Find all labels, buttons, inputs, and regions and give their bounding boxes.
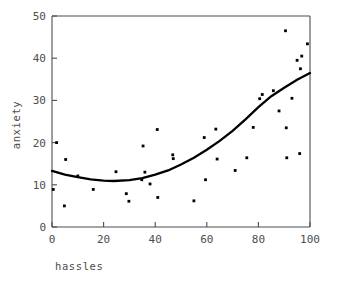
data-point [115,170,118,173]
y-tick-label-50: 50 [33,10,46,23]
x-tick-label-60: 60 [200,233,213,246]
plot-frame [52,16,310,227]
data-point [234,169,237,172]
x-axis-title: hassles [55,260,103,272]
data-point [63,205,66,208]
data-point [76,175,79,178]
data-point [258,97,261,100]
data-point [156,196,159,199]
data-point [216,158,219,161]
y-tick-label-20: 20 [33,137,46,150]
data-point [193,199,196,202]
data-point [306,42,309,45]
data-point [298,152,301,155]
scatter-plot-figure: 0 10 20 30 40 50 0 20 40 60 80 100 hassl… [0,0,345,283]
data-point [92,188,95,191]
x-tick-label-100: 100 [300,233,320,246]
data-point [245,156,248,159]
data-point [125,192,128,195]
y-axis-ticks [52,16,57,227]
data-point [55,141,58,144]
y-axis-tick-labels: 0 10 20 30 40 50 [33,10,46,234]
data-point [149,183,152,186]
scatter-points-group [52,29,309,207]
x-tick-label-20: 20 [97,233,110,246]
data-point [285,156,288,159]
data-point [171,153,174,156]
data-point [214,128,217,131]
x-tick-label-0: 0 [49,233,56,246]
data-point [140,178,143,181]
data-point [291,97,294,100]
x-axis-tick-labels: 0 20 40 60 80 100 [49,233,320,246]
x-tick-label-40: 40 [149,233,162,246]
data-point [52,188,55,191]
y-tick-label-10: 10 [33,179,46,192]
data-point [142,145,145,148]
y-tick-label-0: 0 [39,221,46,234]
data-point [127,200,130,203]
data-point [300,55,303,58]
x-axis-ticks [52,222,310,227]
data-point [296,59,299,62]
data-point [156,128,159,131]
y-tick-label-40: 40 [33,52,46,65]
y-tick-label-30: 30 [33,94,46,107]
data-point [252,126,255,129]
plot-canvas: 0 10 20 30 40 50 0 20 40 60 80 100 hassl… [0,0,345,283]
x-tick-label-80: 80 [252,233,265,246]
data-point [204,178,207,181]
data-point [299,67,302,70]
quadratic-fit-curve [52,73,310,181]
data-point [203,136,206,139]
data-point [64,158,67,161]
y-axis-title: anxiety [10,101,22,149]
data-point [272,89,275,92]
data-point [285,126,288,129]
data-point [172,157,175,160]
data-point [261,93,264,96]
data-point [143,171,146,174]
data-point [278,110,281,113]
data-point [284,29,287,32]
